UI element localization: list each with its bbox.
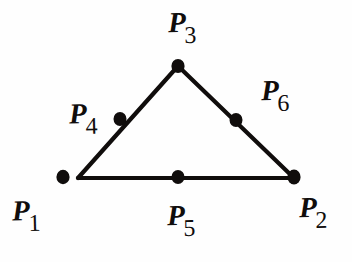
node-p1-dot bbox=[56, 170, 69, 184]
node-label-p4-base: P bbox=[69, 99, 87, 128]
figure-canvas: P1 P2 P3 P4 P5 P6 bbox=[0, 0, 352, 262]
node-label-p1-base: P bbox=[12, 196, 30, 225]
node-label-p2: P2 bbox=[299, 193, 329, 223]
node-label-p5-subscript: 5 bbox=[183, 216, 195, 240]
node-label-p2-base: P bbox=[299, 193, 317, 222]
node-p4-dot bbox=[114, 112, 127, 126]
node-label-p3-base: P bbox=[168, 8, 186, 37]
node-p3-dot bbox=[171, 59, 184, 73]
node-label-p4: P4 bbox=[69, 99, 99, 129]
node-label-p6-base: P bbox=[261, 76, 279, 105]
node-p2-dot bbox=[287, 170, 300, 185]
node-label-p5-base: P bbox=[167, 201, 185, 230]
node-label-p2-subscript: 2 bbox=[315, 208, 327, 232]
node-label-p5: P5 bbox=[167, 201, 197, 231]
node-p6-dot bbox=[230, 113, 243, 127]
node-label-p3-subscript: 3 bbox=[184, 23, 196, 47]
node-label-p6: P6 bbox=[261, 76, 291, 106]
node-label-p6-subscript: 6 bbox=[277, 91, 289, 115]
node-label-p1-subscript: 1 bbox=[28, 211, 41, 235]
node-label-p1: P1 bbox=[12, 196, 42, 226]
node-label-p4-subscript: 4 bbox=[85, 114, 98, 138]
node-p5-dot bbox=[172, 170, 185, 184]
node-label-p3: P3 bbox=[168, 8, 198, 38]
